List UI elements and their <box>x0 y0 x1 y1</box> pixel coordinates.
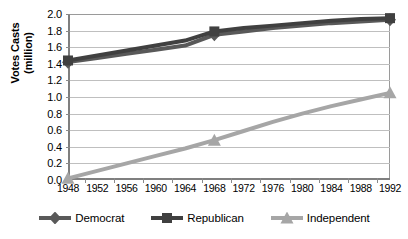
data-point-marker <box>385 13 395 23</box>
data-point-marker <box>63 55 73 65</box>
y-tick-label: 0.8 <box>26 109 62 119</box>
x-tick-label: 1984 <box>316 182 346 194</box>
x-tick-label: 1972 <box>229 182 259 194</box>
legend-item-republican[interactable]: Republican <box>150 212 244 224</box>
legend-label: Republican <box>187 212 244 224</box>
y-tick-label: 0.6 <box>26 125 62 135</box>
data-point-marker <box>209 26 219 36</box>
x-tick-label: 1988 <box>346 182 376 194</box>
chart-container: Votes Casts (million) 0.00.20.40.60.81.0… <box>0 0 408 239</box>
chart-legend: DemocratRepublicanIndependent <box>0 212 408 224</box>
y-tick-label: 1.0 <box>26 92 62 102</box>
legend-item-independent[interactable]: Independent <box>270 212 370 224</box>
y-tick-label: 1.4 <box>26 59 62 69</box>
series-line <box>68 20 390 62</box>
legend-swatch-triangle-icon <box>270 212 304 224</box>
series-independent <box>62 86 397 183</box>
y-tick-label: 1.8 <box>26 26 62 36</box>
series-layer <box>68 14 390 180</box>
y-tick-label: 1.2 <box>26 75 62 85</box>
y-tick-label: 0.4 <box>26 142 62 152</box>
x-tick-label: 1992 <box>375 182 405 194</box>
x-tick-label: 1976 <box>258 182 288 194</box>
x-tick-label: 1948 <box>53 182 83 194</box>
x-tick-label: 1960 <box>141 182 171 194</box>
x-tick-label: 1956 <box>112 182 142 194</box>
legend-swatch-square-icon <box>150 212 184 224</box>
x-tick-label: 1980 <box>287 182 317 194</box>
x-tick-label: 1964 <box>170 182 200 194</box>
x-tick-label: 1952 <box>82 182 112 194</box>
y-tick-label: 0.2 <box>26 158 62 168</box>
x-axis-tick-labels: 1948195219561960196419681972197619801984… <box>68 182 390 198</box>
y-axis-title-line-1: Votes Casts <box>9 0 22 113</box>
y-tick-label: 2.0 <box>26 9 62 19</box>
legend-item-democrat[interactable]: Democrat <box>38 212 124 224</box>
legend-label: Democrat <box>75 212 124 224</box>
legend-swatch-diamond-icon <box>38 212 72 224</box>
y-axis-tick-labels: 0.00.20.40.60.81.01.21.41.61.82.0 <box>26 0 62 239</box>
y-tick-label: 1.6 <box>26 42 62 52</box>
series-line <box>68 93 390 178</box>
x-tick-label: 1968 <box>199 182 229 194</box>
legend-label: Independent <box>307 212 370 224</box>
